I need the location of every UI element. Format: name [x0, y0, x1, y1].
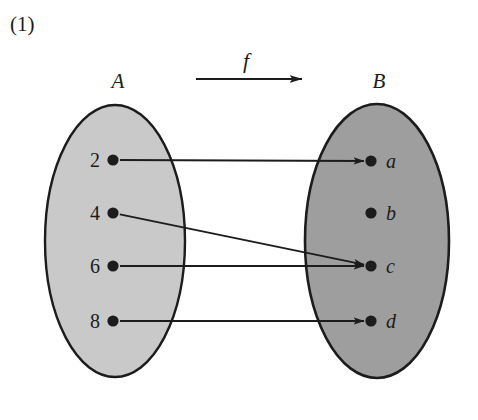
element-dot-c	[365, 260, 376, 271]
element-label-b: b	[386, 202, 396, 224]
element-label-2: 2	[90, 149, 100, 171]
element-label-d: d	[386, 310, 397, 332]
mapping-arrow-2-to-a	[120, 160, 364, 161]
set-b-ellipse	[305, 104, 449, 378]
set-b-label: B	[373, 69, 386, 93]
figure-number-label: (1)	[10, 12, 35, 36]
element-dot-b	[365, 207, 376, 218]
element-label-4: 4	[90, 202, 100, 224]
element-label-c: c	[386, 255, 395, 277]
element-dot-2	[107, 154, 118, 165]
set-a-label: A	[110, 69, 125, 93]
element-dot-4	[107, 207, 118, 218]
element-dot-6	[107, 260, 118, 271]
set-a-ellipse	[45, 105, 185, 377]
set-mapping-diagram: (1) A B f 2468 abcd	[0, 0, 478, 420]
element-dot-a	[365, 155, 376, 166]
element-dot-d	[365, 315, 376, 326]
element-label-a: a	[386, 150, 396, 172]
figure-canvas: (1) A B f 2468 abcd	[0, 0, 478, 420]
element-dot-8	[107, 315, 118, 326]
function-name-label: f	[243, 48, 252, 73]
element-label-6: 6	[90, 255, 100, 277]
element-label-8: 8	[90, 310, 100, 332]
